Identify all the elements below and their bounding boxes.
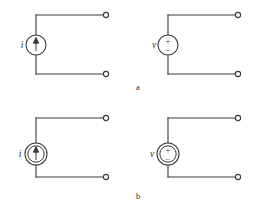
terminal-bottom <box>103 174 108 179</box>
terminal-top <box>235 115 240 120</box>
minus-sign: − <box>166 154 171 164</box>
circuit-figure: i + − v a <box>0 0 259 209</box>
minus-sign: − <box>166 45 171 55</box>
terminal-top <box>103 12 108 17</box>
source-label: v <box>152 40 157 50</box>
row-a-independent-sources: i + − v a <box>21 12 241 92</box>
source-label: i <box>21 40 24 50</box>
terminal-bottom <box>103 71 108 76</box>
circuit-diagram-canvas: i + − v a <box>0 0 259 209</box>
circuit-dependent-voltage-source: + − v <box>150 115 241 179</box>
row-b-dependent-sources: i + − v b <box>19 115 241 201</box>
circuit-independent-voltage-source: + − v <box>152 12 241 76</box>
terminal-bottom <box>235 71 240 76</box>
caption-b: b <box>136 191 140 201</box>
circuit-independent-current-source: i <box>21 12 109 76</box>
terminal-top <box>103 115 108 120</box>
terminal-bottom <box>235 174 240 179</box>
circuit-dependent-current-source: i <box>19 115 109 179</box>
source-label: v <box>150 149 155 159</box>
caption-a: a <box>136 82 140 92</box>
terminal-top <box>235 12 240 17</box>
source-label: i <box>19 149 22 159</box>
